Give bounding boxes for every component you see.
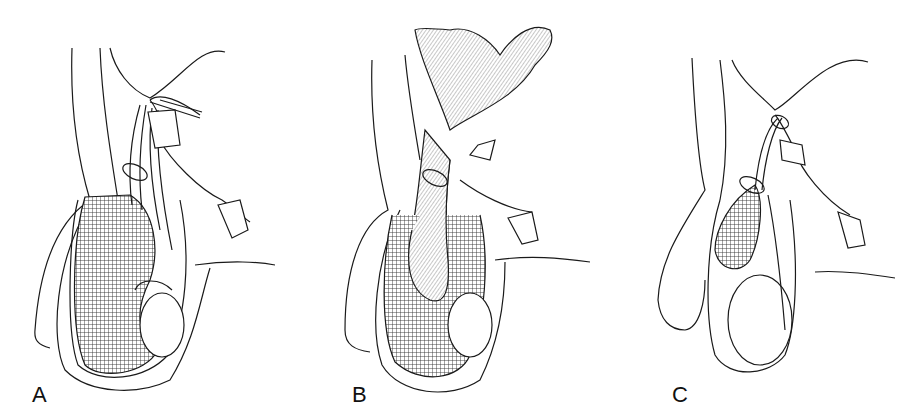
panel-label-c: C — [672, 382, 688, 408]
panel-b: B — [300, 0, 620, 420]
hydrocele-diagram-a — [0, 0, 310, 420]
cord-hydrocele-diagram-c — [610, 0, 919, 420]
panel-label-a: A — [32, 382, 47, 408]
hernia-diagram-b — [300, 0, 620, 420]
panel-c: C — [610, 0, 919, 420]
panel-label-b: B — [352, 382, 367, 408]
panel-a: A — [0, 0, 310, 420]
